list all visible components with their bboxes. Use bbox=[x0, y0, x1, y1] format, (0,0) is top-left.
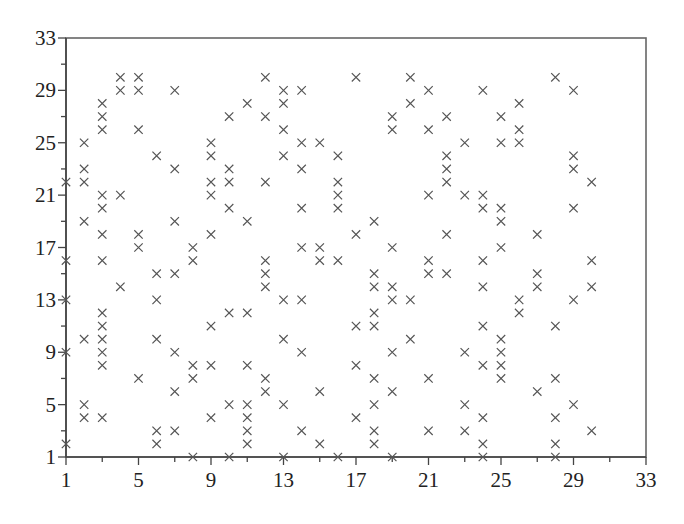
x-marker-icon bbox=[461, 191, 469, 199]
x-marker-icon bbox=[207, 178, 215, 186]
x-marker-icon bbox=[424, 374, 432, 382]
x-marker-icon bbox=[243, 217, 251, 225]
x-marker-icon bbox=[152, 152, 160, 160]
x-marker-icon bbox=[569, 204, 577, 212]
y-tick-label: 5 bbox=[46, 393, 57, 417]
x-marker-icon bbox=[497, 204, 505, 212]
data-points bbox=[62, 73, 596, 461]
x-marker-icon bbox=[515, 309, 523, 317]
x-marker-icon bbox=[461, 348, 469, 356]
x-marker-icon bbox=[479, 256, 487, 264]
x-marker-icon bbox=[569, 165, 577, 173]
x-marker-icon bbox=[515, 125, 523, 133]
x-marker-icon bbox=[98, 112, 106, 120]
x-marker-icon bbox=[80, 217, 88, 225]
x-marker-icon bbox=[352, 73, 360, 81]
x-marker-icon bbox=[279, 99, 287, 107]
x-marker-icon bbox=[370, 322, 378, 330]
x-marker-icon bbox=[297, 86, 305, 94]
x-marker-icon bbox=[587, 283, 595, 291]
x-marker-icon bbox=[551, 440, 559, 448]
x-marker-icon bbox=[225, 309, 233, 317]
x-marker-icon bbox=[551, 73, 559, 81]
x-marker-icon bbox=[479, 414, 487, 422]
x-marker-icon bbox=[243, 309, 251, 317]
y-tick-label: 17 bbox=[35, 236, 56, 260]
x-marker-icon bbox=[479, 191, 487, 199]
x-marker-icon bbox=[316, 440, 324, 448]
x-marker-icon bbox=[243, 414, 251, 422]
x-marker-icon bbox=[80, 400, 88, 408]
y-tick-label: 33 bbox=[35, 26, 56, 50]
x-marker-icon bbox=[388, 296, 396, 304]
x-marker-icon bbox=[479, 204, 487, 212]
x-tick-label: 9 bbox=[206, 468, 217, 492]
x-marker-icon bbox=[442, 165, 450, 173]
x-marker-icon bbox=[352, 414, 360, 422]
x-marker-icon bbox=[225, 204, 233, 212]
x-marker-icon bbox=[479, 440, 487, 448]
x-marker-icon bbox=[352, 322, 360, 330]
x-marker-icon bbox=[297, 296, 305, 304]
x-marker-icon bbox=[243, 440, 251, 448]
x-marker-icon bbox=[587, 256, 595, 264]
x-marker-icon bbox=[279, 152, 287, 160]
x-marker-icon bbox=[370, 283, 378, 291]
x-marker-icon bbox=[497, 335, 505, 343]
x-marker-icon bbox=[388, 387, 396, 395]
x-marker-icon bbox=[225, 178, 233, 186]
x-marker-icon bbox=[243, 427, 251, 435]
x-marker-icon bbox=[98, 322, 106, 330]
x-marker-icon bbox=[316, 387, 324, 395]
x-marker-icon bbox=[515, 139, 523, 147]
x-marker-icon bbox=[98, 99, 106, 107]
x-marker-icon bbox=[207, 230, 215, 238]
y-tick-label: 9 bbox=[46, 340, 57, 364]
x-marker-icon bbox=[497, 243, 505, 251]
x-marker-icon bbox=[152, 440, 160, 448]
x-marker-icon bbox=[587, 427, 595, 435]
x-marker-icon bbox=[225, 165, 233, 173]
x-marker-icon bbox=[497, 361, 505, 369]
x-marker-icon bbox=[370, 217, 378, 225]
x-marker-icon bbox=[406, 296, 414, 304]
x-marker-icon bbox=[134, 230, 142, 238]
x-marker-icon bbox=[533, 269, 541, 277]
x-marker-icon bbox=[569, 400, 577, 408]
x-marker-icon bbox=[297, 165, 305, 173]
x-marker-icon bbox=[98, 256, 106, 264]
x-axis: 159131721252933 bbox=[61, 457, 657, 492]
x-marker-icon bbox=[171, 348, 179, 356]
x-tick-label: 13 bbox=[273, 468, 294, 492]
x-marker-icon bbox=[261, 387, 269, 395]
x-marker-icon bbox=[134, 73, 142, 81]
x-marker-icon bbox=[207, 152, 215, 160]
x-marker-icon bbox=[497, 217, 505, 225]
x-marker-icon bbox=[134, 86, 142, 94]
x-marker-icon bbox=[261, 374, 269, 382]
x-marker-icon bbox=[424, 269, 432, 277]
x-marker-icon bbox=[207, 361, 215, 369]
x-marker-icon bbox=[424, 256, 432, 264]
x-tick-label: 25 bbox=[491, 468, 512, 492]
y-tick-label: 29 bbox=[35, 78, 56, 102]
x-marker-icon bbox=[98, 230, 106, 238]
x-marker-icon bbox=[316, 256, 324, 264]
x-tick-label: 17 bbox=[346, 468, 367, 492]
x-marker-icon bbox=[80, 178, 88, 186]
x-marker-icon bbox=[370, 400, 378, 408]
x-marker-icon bbox=[424, 191, 432, 199]
x-marker-icon bbox=[261, 112, 269, 120]
x-marker-icon bbox=[406, 99, 414, 107]
x-marker-icon bbox=[171, 86, 179, 94]
y-axis: 159131721252933 bbox=[35, 26, 66, 469]
x-marker-icon bbox=[98, 125, 106, 133]
x-marker-icon bbox=[261, 283, 269, 291]
x-marker-icon bbox=[497, 112, 505, 120]
x-marker-icon bbox=[80, 335, 88, 343]
x-marker-icon bbox=[261, 178, 269, 186]
x-marker-icon bbox=[261, 256, 269, 264]
x-marker-icon bbox=[134, 374, 142, 382]
x-marker-icon bbox=[279, 86, 287, 94]
x-marker-icon bbox=[388, 125, 396, 133]
